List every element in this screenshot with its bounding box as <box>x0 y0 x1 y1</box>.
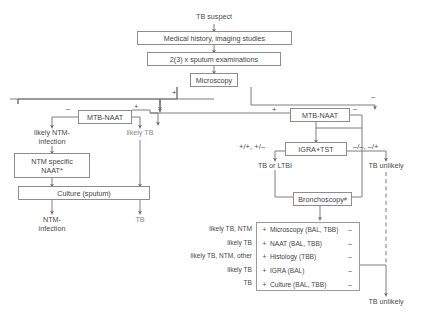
label-likely-ntm-infection: likely NTM- infection <box>34 128 70 146</box>
flowchart-canvas: TB suspect Medical history, imaging stud… <box>0 0 429 314</box>
sign-igra-negative-combo: –/–, –/+ <box>353 142 379 151</box>
row-test-name: Microscopy <box>270 226 303 233</box>
results-table: + Microscopy (BAL, TBB) – + NAAT (BAL, T… <box>256 222 360 291</box>
row-specimen: (TBB) <box>299 253 316 260</box>
row-test-name: Histology <box>270 253 297 260</box>
sign-mtb-right-incoming-positive: + <box>272 105 276 114</box>
sign-microscopy-positive: + <box>172 88 176 97</box>
label-tb-or-ltbi: TB or LTBI <box>258 161 292 170</box>
node-microscopy: Microscopy <box>190 73 238 87</box>
sign-mtb-left-positive: + <box>134 102 138 111</box>
row-minus: – <box>343 267 357 274</box>
row-test: IGRA (BAL) <box>270 267 343 274</box>
row-specimen: (BAL, TBB) <box>289 240 322 247</box>
bronchoscopy-label: Bronchoscopy <box>298 195 344 204</box>
node-medical-history: Medical history, imaging studies <box>137 31 292 45</box>
node-sputum-examinations: 2(3) x sputum examinations <box>147 52 281 66</box>
sign-mtb-right-negative: – <box>353 104 357 113</box>
row-plus: + <box>259 253 270 260</box>
label-tb-unlikely-lower: TB unlikely <box>368 297 403 306</box>
row-minus: – <box>343 240 357 247</box>
node-tb-suspect: TB suspect <box>196 12 232 21</box>
table-row: + NAAT (BAL, TBB) – <box>259 237 357 251</box>
results-row-label: likely TB <box>160 263 252 277</box>
node-mtb-naat-right: MTB-NAAT <box>290 108 350 122</box>
row-test: Culture (BAL, TBB) <box>270 281 343 288</box>
row-minus: – <box>343 226 357 233</box>
node-culture-sputum: Culture (sputum) <box>18 186 150 200</box>
results-row-labels: likely TB, NTM likely TB likely TB, NTM,… <box>160 222 252 290</box>
label-tb-left: TB <box>135 215 144 224</box>
row-plus: + <box>259 226 270 233</box>
sign-mtb-left-negative: – <box>66 104 70 113</box>
table-row: + Culture (BAL, TBB) – <box>259 277 357 291</box>
node-bronchoscopy: Bronchoscopy# <box>293 192 352 206</box>
label-ntm-infection: NTM- infection <box>39 215 66 233</box>
row-test: Histology (TBB) <box>270 253 343 260</box>
row-minus: – <box>343 281 357 288</box>
row-test: NAAT (BAL, TBB) <box>270 240 343 247</box>
results-row-label: TB <box>160 276 252 290</box>
node-igra-tst: IGRA+TST <box>285 142 347 156</box>
sign-microscopy-negative: – <box>371 92 375 101</box>
sign-igra-positive-combo: +/+, +/– <box>239 142 265 151</box>
row-test-name: IGRA <box>270 267 286 274</box>
results-row-label: likely TB <box>160 236 252 250</box>
results-row-label: likely TB, NTM, other <box>160 249 252 263</box>
row-specimen: (BAL, TBB) <box>305 226 338 233</box>
row-test-name: NAAT <box>270 240 287 247</box>
bronchoscopy-footnote-marker: # <box>344 196 347 202</box>
row-plus: + <box>259 240 270 247</box>
node-ntm-specific-naat: NTM specific NAAT* <box>14 153 90 178</box>
row-test: Microscopy (BAL, TBB) <box>270 226 343 233</box>
row-minus: – <box>343 253 357 260</box>
row-specimen: (BAL) <box>288 267 305 274</box>
results-row-label: likely TB, NTM <box>160 222 252 236</box>
label-tb-unlikely-upper: TB unlikely <box>368 161 403 170</box>
table-row: + Histology (TBB) – <box>259 250 357 264</box>
table-row: + Microscopy (BAL, TBB) – <box>259 223 357 237</box>
row-test-name: Culture <box>270 281 291 288</box>
row-plus: + <box>259 267 270 274</box>
row-specimen: (BAL, TBB) <box>293 281 326 288</box>
row-plus: + <box>259 281 270 288</box>
label-likely-tb-mid: likely TB <box>126 128 153 137</box>
table-row: + IGRA (BAL) – <box>259 264 357 278</box>
node-mtb-naat-left: MTB-NAAT <box>78 110 132 124</box>
